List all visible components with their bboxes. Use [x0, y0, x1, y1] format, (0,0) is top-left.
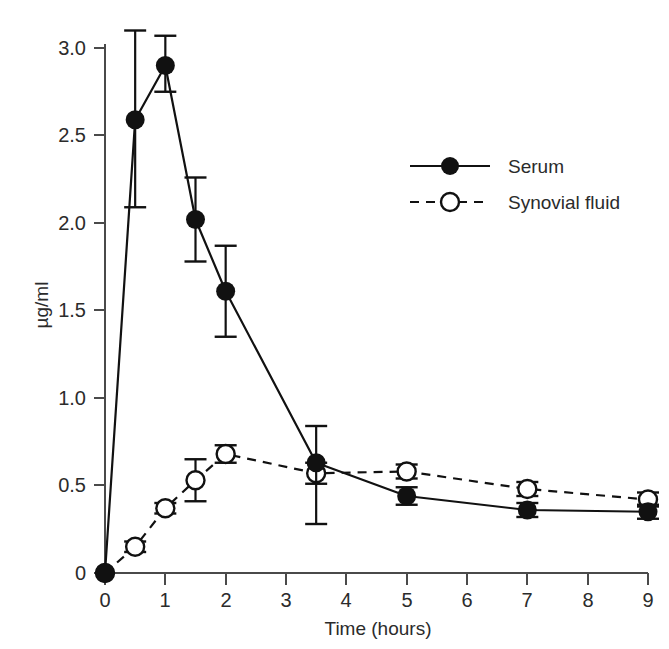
legend-label-synovial-fluid: Synovial fluid [508, 192, 620, 213]
data-point-filled-circle [397, 487, 416, 506]
data-point-filled-circle [307, 453, 326, 472]
y-tick-label-1-5: 1.5 [58, 299, 86, 321]
legend-label-serum: Serum [508, 156, 564, 177]
x-tick-label-7: 7 [521, 589, 532, 611]
x-tick-label-8: 8 [582, 589, 593, 611]
x-tick-label-9: 9 [642, 589, 653, 611]
data-point-filled-circle [96, 564, 115, 583]
y-tick-label-3-0: 3.0 [58, 37, 86, 59]
x-tick-label-4: 4 [340, 589, 351, 611]
data-point-filled-circle [518, 501, 537, 520]
data-point-filled-circle [216, 282, 235, 301]
y-tick-label-0: 0 [75, 562, 86, 584]
x-tick-label-1: 1 [159, 589, 170, 611]
data-point-open-circle [156, 499, 174, 517]
data-point-open-circle [518, 480, 536, 498]
x-tick-label-6: 6 [461, 589, 472, 611]
data-point-open-circle [126, 538, 144, 556]
data-point-filled-circle [126, 110, 145, 129]
data-point-filled-circle [156, 56, 175, 75]
y-tick-label-2-5: 2.5 [58, 124, 86, 146]
y-tick-label-0-5: 0.5 [58, 474, 86, 496]
legend-open-circle-icon [441, 193, 459, 211]
x-tick-label-2: 2 [220, 589, 231, 611]
pharmacokinetics-line-chart: 0 0.5 1.0 1.5 2.0 2.5 3.0 µg/ml [0, 0, 669, 649]
y-tick-label-2-0: 2.0 [58, 212, 86, 234]
x-tick-label-5: 5 [401, 589, 412, 611]
data-point-open-circle [217, 445, 235, 463]
data-point-open-circle [187, 471, 205, 489]
data-point-open-circle [398, 463, 416, 481]
y-tick-label-1-0: 1.0 [58, 387, 86, 409]
chart-background [0, 0, 669, 649]
y-axis-title: µg/ml [31, 282, 52, 329]
legend-filled-circle-icon [441, 157, 459, 175]
data-point-filled-circle [186, 210, 205, 229]
x-axis-title: Time (hours) [325, 618, 432, 639]
x-tick-label-3: 3 [280, 589, 291, 611]
x-tick-label-0: 0 [99, 589, 110, 611]
data-point-filled-circle [639, 502, 658, 521]
chart-figure: 0 0.5 1.0 1.5 2.0 2.5 3.0 µg/ml [0, 0, 669, 649]
